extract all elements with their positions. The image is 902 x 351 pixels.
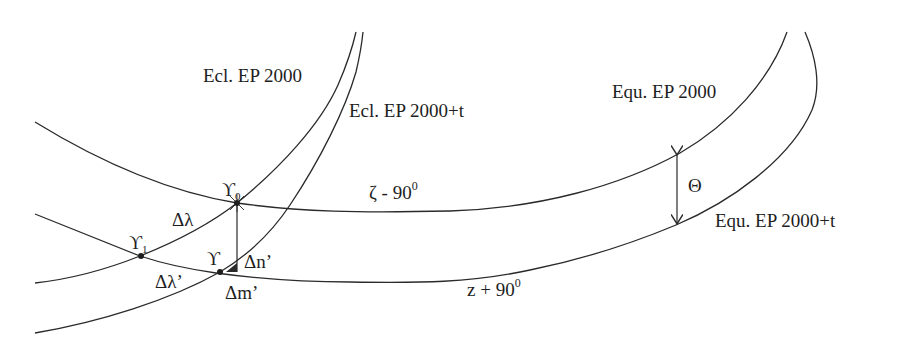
aries-point (217, 269, 223, 275)
ecliptic-2000t-curve (35, 32, 363, 333)
aries1-label: ϒ1 (129, 233, 148, 255)
equator-2000t-curve (35, 32, 817, 282)
equator-2000-label: Equ. EP 2000 (612, 81, 716, 102)
delta-m-prime-label: Δm’ (225, 282, 258, 303)
aries-label: ϒ (207, 249, 221, 269)
equator-2000t-label: Equ. EP 2000+t (715, 210, 836, 231)
delta-lambda-prime-label: Δλ’ (155, 271, 183, 292)
ecliptic-2000-curve (35, 32, 356, 283)
zeta-angle-label: ζ - 900 (369, 179, 418, 203)
precession-diagram: Ecl. EP 2000 Ecl. EP 2000+t Equ. EP 2000… (0, 0, 902, 351)
z-angle-label: z + 900 (467, 276, 521, 300)
theta-label: Θ (688, 175, 702, 196)
delta-n-prime-label: Δn’ (244, 251, 272, 272)
aries0-label: ϒ0 (222, 180, 241, 202)
ecliptic-2000t-label: Ecl. EP 2000+t (349, 100, 465, 121)
ecliptic-2000-label: Ecl. EP 2000 (203, 65, 302, 86)
delta-lambda-label: Δλ (172, 209, 194, 230)
